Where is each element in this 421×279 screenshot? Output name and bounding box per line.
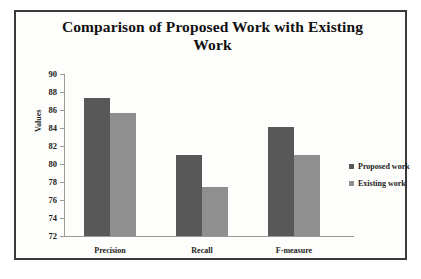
y-axis-tick-label: 86 — [49, 105, 65, 115]
bar-existing-f-measure — [294, 155, 320, 236]
bar-group — [176, 74, 228, 236]
legend-swatch-proposed — [349, 164, 354, 169]
y-axis-tick-label: 82 — [49, 141, 65, 151]
chart-legend: Proposed work Existing work — [349, 162, 410, 196]
y-axis-tick-label: 76 — [49, 195, 65, 205]
legend-item: Proposed work — [349, 162, 410, 171]
y-axis-tick-label: 88 — [49, 87, 65, 97]
bar-group — [268, 74, 320, 236]
bar-existing-precision — [110, 113, 136, 236]
plot-area: 90888684828078767472PrecisionRecallF-mea… — [64, 74, 340, 236]
y-axis-tick-label: 72 — [49, 231, 65, 241]
bar-proposed-f-measure — [268, 127, 294, 236]
chart-title: Comparison of Proposed Work with Existin… — [46, 18, 379, 54]
bar-group — [84, 74, 136, 236]
x-axis-line — [64, 236, 354, 237]
y-axis-tick-label: 74 — [49, 213, 65, 223]
bar-proposed-precision — [84, 98, 110, 236]
legend-swatch-existing — [349, 181, 354, 186]
y-axis-tick-label: 80 — [49, 159, 65, 169]
x-axis-tick-label: F-measure — [244, 246, 344, 255]
chart-figure: Comparison of Proposed Work with Existin… — [14, 10, 407, 260]
x-axis-tick-label: Precision — [60, 246, 160, 255]
bar-proposed-recall — [176, 155, 202, 236]
bar-existing-recall — [202, 187, 228, 237]
legend-label-proposed: Proposed work — [358, 162, 410, 171]
y-axis-tick-label: 84 — [49, 123, 65, 133]
legend-item: Existing work — [349, 179, 410, 188]
y-axis-tick-label: 90 — [49, 69, 65, 79]
x-axis-tick-label: Recall — [152, 246, 252, 255]
y-axis-tick-label: 78 — [49, 177, 65, 187]
legend-label-existing: Existing work — [358, 179, 406, 188]
y-axis-title: Values — [34, 110, 43, 132]
